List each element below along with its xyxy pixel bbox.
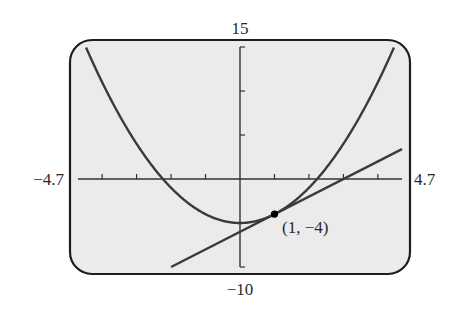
xmin-label: −4.7 <box>33 170 64 189</box>
point-label: (1, −4) <box>282 218 328 237</box>
ymax-label: 15 <box>232 19 249 38</box>
xmax-label: 4.7 <box>414 170 436 189</box>
ymin-label: −10 <box>227 280 254 299</box>
graphing-calculator-plot: 15 −10 −4.7 4.7 (1, −4) <box>0 0 456 310</box>
tangent-point <box>271 211 278 218</box>
